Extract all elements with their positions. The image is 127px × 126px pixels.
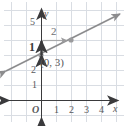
x-axis-label: x (113, 104, 117, 114)
y-tick-label-2: 2 (31, 65, 36, 75)
origin-label: O (32, 105, 39, 115)
run-annotation-label: 2 (51, 26, 57, 37)
y-tick-label-5: 5 (30, 17, 35, 27)
x-tick-label-1: 1 (54, 105, 59, 115)
intercept-point-label: (0, 3) (40, 57, 64, 68)
y-axis-label: y (44, 9, 48, 19)
coordinate-plane-figure: 5 2 1 1 2 3 4 O x y (0, 3) 1 2 (0, 0, 127, 126)
x-tick-label-2: 2 (69, 105, 74, 115)
rise-annotation-label: 1 (29, 41, 35, 53)
x-tick-label-4: 4 (99, 105, 104, 115)
x-tick-label-3: 3 (84, 105, 89, 115)
y-tick-label-1: 1 (32, 80, 37, 90)
plot-area: 5 2 1 1 2 3 4 O x y (0, 3) 1 2 (0, 0, 127, 126)
